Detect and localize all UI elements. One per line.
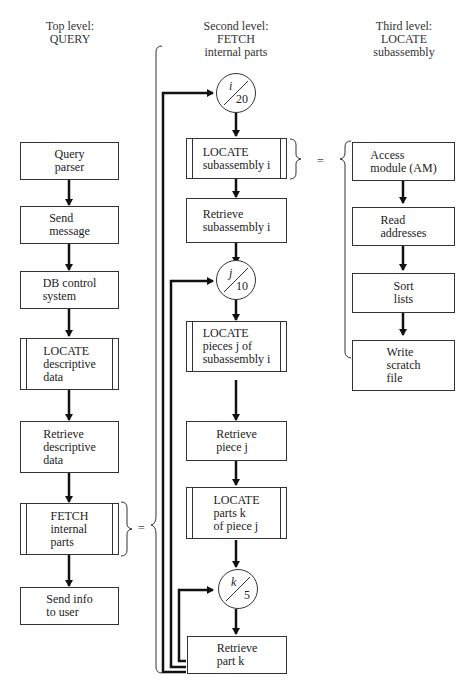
box-fetch-internal-parts: FETCH internal parts [20, 503, 119, 555]
loop-i-var: i [229, 79, 232, 94]
loop-j-var: j [229, 266, 232, 281]
box-write-scratch-file: Write scratch file [352, 340, 455, 391]
box-db-control-system-text: DB control system [43, 277, 97, 303]
box-retrieve-subassembly: Retrieve subassembly i [186, 198, 287, 243]
box-read-addresses-text: Read addresses [381, 214, 427, 240]
box-retrieve-subassembly-text: Retrieve subassembly i [203, 208, 271, 234]
box-locate-subassembly: LOCATE subassembly i [186, 138, 287, 179]
loop-k-var: k [231, 575, 236, 590]
box-db-control-system: DB control system [20, 271, 119, 309]
box-sort-lists-text: Sort lists [393, 280, 413, 306]
box-retrieve-piece-text: Retrieve piece j [216, 428, 257, 454]
box-access-module-text: Access module (AM) [370, 149, 436, 175]
box-locate-pieces-text: LOCATE pieces j of subassembly i [203, 327, 271, 366]
loop-i-count: 20 [236, 92, 248, 107]
loop-j-count: 10 [236, 279, 248, 294]
loop-k-count: 5 [244, 588, 250, 603]
box-locate-descriptive-data-text: LOCATE descriptive data [43, 345, 96, 384]
equals-sign-fetch: = [138, 521, 145, 536]
box-query-parser-text: Query parser [55, 148, 85, 174]
box-send-info-to-user: Send info to user [20, 587, 119, 625]
box-fetch-internal-parts-text: FETCH internal parts [50, 510, 88, 549]
box-retrieve-part: Retrieve part k [187, 636, 287, 674]
box-retrieve-part-text: Retrieve part k [217, 642, 258, 668]
box-send-message-text: Send message [49, 212, 90, 238]
box-locate-descriptive-data: LOCATE descriptive data [20, 338, 119, 390]
box-sort-lists: Sort lists [352, 273, 455, 313]
loop-divider-icon [218, 569, 258, 609]
equals-sign-locate: = [317, 154, 324, 169]
box-retrieve-piece: Retrieve piece j [186, 421, 287, 461]
box-locate-subassembly-text: LOCATE subassembly i [203, 146, 271, 172]
box-retrieve-descriptive-data-text: Retrieve descriptive data [43, 428, 96, 467]
box-write-scratch-file-text: Write scratch file [387, 346, 421, 385]
box-send-info-to-user-text: Send info to user [46, 593, 92, 619]
box-locate-parts: LOCATE parts k of piece j [186, 487, 287, 539]
loop-counter-k: k 5 [218, 569, 258, 609]
box-send-message: Send message [20, 206, 119, 244]
loop-counter-j: j 10 [216, 260, 256, 300]
box-locate-parts-text: LOCATE parts k of piece j [214, 494, 260, 533]
box-locate-pieces: LOCATE pieces j of subassembly i [186, 321, 287, 372]
box-query-parser: Query parser [20, 142, 119, 180]
box-retrieve-descriptive-data: Retrieve descriptive data [20, 421, 119, 473]
box-access-module: Access module (AM) [352, 142, 455, 181]
loop-counter-i: i 20 [216, 73, 256, 113]
box-read-addresses: Read addresses [352, 207, 455, 246]
